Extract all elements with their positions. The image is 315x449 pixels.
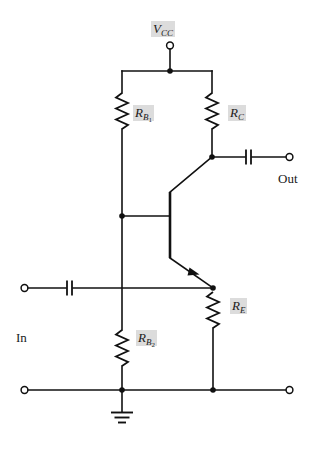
label-rc-subscript: C	[238, 112, 244, 122]
ground-symbol-icon	[111, 390, 133, 423]
label-rc: RC	[228, 105, 246, 121]
label-in: In	[16, 331, 27, 344]
label-re: RE	[230, 298, 247, 314]
q1-collector-lead	[170, 157, 212, 192]
label-re-subscript: E	[240, 305, 246, 315]
label-rb2-index: 2	[151, 341, 155, 349]
label-out: Out	[278, 172, 298, 185]
bottom-rail-group	[21, 387, 293, 394]
label-vcc-symbol: V	[153, 21, 161, 36]
label-rb2-subsubscript: 2	[151, 337, 155, 347]
transistor-npn-q1	[119, 157, 213, 288]
label-rb1: RB1	[133, 105, 154, 121]
vcc-terminal[interactable]	[167, 42, 174, 49]
q1-emitter-arrow-icon	[188, 268, 200, 276]
re-zigzag-body	[207, 292, 219, 328]
emitter-node	[210, 285, 216, 291]
out-return-terminal[interactable]	[286, 387, 293, 394]
resistor-rb2-group	[116, 330, 128, 390]
label-re-symbol: R	[232, 298, 240, 313]
label-vcc: VCC	[151, 21, 175, 37]
rb1-zigzag-body	[116, 93, 128, 129]
rb2-zigzag-body	[116, 330, 128, 366]
resistor-re-group	[207, 285, 219, 390]
label-vcc-subscript: CC	[161, 28, 173, 38]
resistor-rb1-group	[116, 71, 128, 216]
label-rb2-symbol: R	[138, 330, 146, 345]
in-terminal[interactable]	[21, 285, 28, 292]
schematic-canvas	[0, 0, 315, 449]
label-rb1-symbol: R	[135, 105, 143, 120]
label-rb1-subsubscript: 1	[148, 112, 152, 122]
label-rc-symbol: R	[230, 105, 238, 120]
label-rb2: RB2	[136, 330, 157, 346]
output-branch-group	[209, 150, 293, 165]
rc-zigzag-body	[206, 93, 218, 129]
vcc-supply-group	[122, 42, 212, 74]
in-return-terminal[interactable]	[21, 387, 28, 394]
input-branch-group	[21, 281, 213, 296]
resistor-rc-group	[206, 71, 218, 157]
emitter-return-node	[210, 387, 216, 393]
label-rb1-index: 1	[148, 116, 152, 124]
circuit-diagram: VCC RB1 RC Out RE RB2 In	[0, 0, 315, 449]
out-terminal[interactable]	[286, 154, 293, 161]
